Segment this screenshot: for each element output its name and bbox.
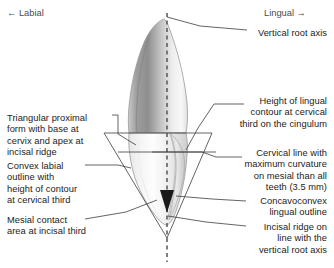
annotation-incisal-ridge-on-axis: Incisal ridge on line with the vertical … xyxy=(227,222,327,256)
annotation-mesial-contact-area: Mesial contact area at incisal third xyxy=(7,215,111,238)
annotation-triangular-proximal-form: Triangular proximal form with base at ce… xyxy=(7,113,111,158)
orientation-label-lingual: Lingual → xyxy=(264,8,306,19)
diagram-canvas: ← Labial Lingual → Triangular proximal f… xyxy=(0,0,334,268)
annotation-concavoconvex-lingual-outline: Concavoconvex lingual outline xyxy=(221,196,327,219)
annotation-vertical-root-axis: Vertical root axis xyxy=(217,28,327,39)
tooth-body xyxy=(128,19,187,225)
annotation-convex-labial-outline: Convex labial outline with height of con… xyxy=(7,161,111,206)
annotation-cervical-line-curvature: Cervical line with maximum curvature on … xyxy=(213,148,327,193)
orientation-label-labial: ← Labial xyxy=(7,8,44,19)
annotation-height-lingual-contour: Height of lingual contour at cervical th… xyxy=(215,96,327,130)
tooth-root-shape xyxy=(128,19,187,133)
